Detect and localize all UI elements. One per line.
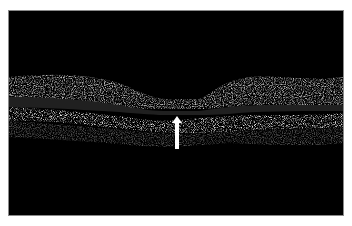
arrow-up-icon	[171, 116, 183, 150]
oct-scan-image	[8, 10, 344, 216]
retina-layers	[9, 11, 344, 216]
